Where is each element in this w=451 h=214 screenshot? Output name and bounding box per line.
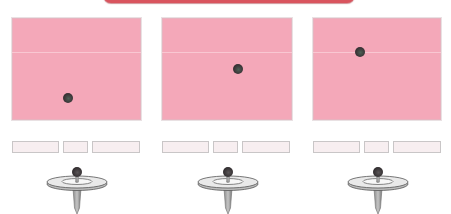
box-row-3: [313, 141, 443, 153]
answer-box[interactable]: [63, 141, 88, 153]
answer-box[interactable]: [393, 141, 441, 153]
answer-box[interactable]: [92, 141, 140, 153]
ball-icon: [63, 93, 73, 103]
top-title-bar: [103, 0, 355, 3]
answer-box[interactable]: [213, 141, 238, 153]
stand-1: [46, 164, 108, 214]
panel-divider-line: [12, 52, 141, 53]
answer-box[interactable]: [162, 141, 209, 153]
turntable-stand-icon: [197, 164, 259, 214]
stand-3: [347, 164, 409, 214]
turntable-stand-icon: [347, 164, 409, 214]
panel-divider-line: [313, 52, 441, 53]
ball-icon: [355, 47, 365, 57]
ball-icon: [233, 64, 243, 74]
answer-box[interactable]: [12, 141, 59, 153]
answer-box[interactable]: [364, 141, 389, 153]
stand-2: [197, 164, 259, 214]
turntable-stand-icon: [46, 164, 108, 214]
answer-box[interactable]: [242, 141, 290, 153]
panel-2: [162, 18, 292, 120]
panel-divider-line: [162, 52, 292, 53]
panel-3: [313, 18, 441, 120]
answer-box[interactable]: [313, 141, 360, 153]
box-row-2: [162, 141, 292, 153]
box-row-1: [12, 141, 142, 153]
panel-1: [12, 18, 141, 120]
